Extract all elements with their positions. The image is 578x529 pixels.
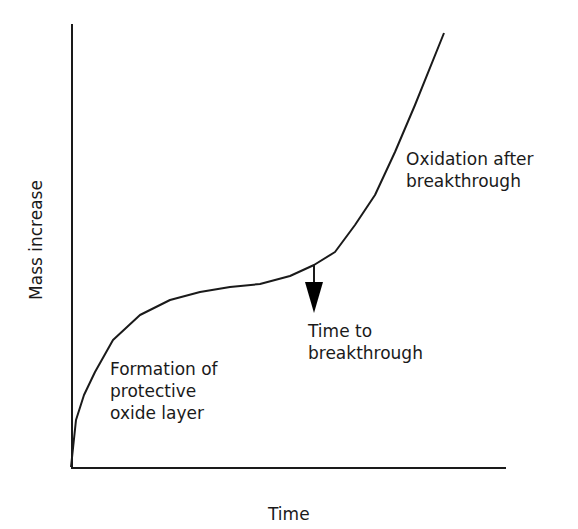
annotation-line: protective: [110, 380, 218, 402]
breakthrough-arrow-head-icon: [305, 282, 323, 313]
annotation-line: Oxidation after: [406, 148, 534, 170]
x-axis-label: Time: [268, 503, 310, 525]
annotation-formation: Formation of protective oxide layer: [110, 358, 218, 424]
annotation-breakthrough: Time to breakthrough: [308, 320, 423, 364]
annotation-line: oxide layer: [110, 402, 218, 424]
annotation-line: breakthrough: [308, 342, 423, 364]
y-axis-label: Mass increase: [26, 180, 46, 300]
annotation-line: Time to: [308, 320, 423, 342]
diagram-canvas: [0, 0, 578, 529]
annotation-line: breakthrough: [406, 170, 534, 192]
annotation-line: Formation of: [110, 358, 218, 380]
annotation-after-breakthrough: Oxidation after breakthrough: [406, 148, 534, 192]
